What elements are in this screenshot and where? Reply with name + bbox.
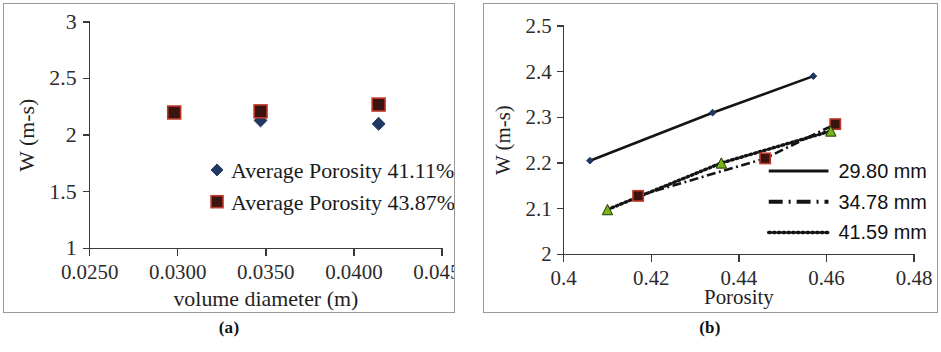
x-tick-label-a: 0.0450 xyxy=(413,260,454,284)
chart-a: 11.522.530.02500.03000.03500.04000.0450v… xyxy=(4,4,454,312)
y-tick-label-b: 2.1 xyxy=(526,197,552,221)
y-tick-label-b: 2.2 xyxy=(526,151,552,175)
x-axis-title-b: Porosity xyxy=(704,285,774,309)
legend-label-a: Average Porosity 41.11% xyxy=(231,159,454,183)
series-line-b xyxy=(590,76,813,161)
y-axis-title-a: W (m-s) xyxy=(15,99,39,172)
panel-b-caption: (b) xyxy=(650,318,770,338)
chart-b: 22.12.22.32.42.50.40.420.440.460.48Poros… xyxy=(484,4,937,312)
data-point-square xyxy=(633,191,643,201)
panel-a: 11.522.530.02500.03000.03500.04000.0450v… xyxy=(3,3,455,313)
x-axis-title-a: volume diameter (m) xyxy=(173,287,358,311)
y-tick-label-a: 2 xyxy=(66,123,77,147)
x-tick-label-b: 0.46 xyxy=(808,266,845,290)
data-point-triangle xyxy=(602,204,612,214)
data-point-square xyxy=(372,98,385,111)
data-point-square xyxy=(211,196,223,208)
x-tick-label-b: 0.4 xyxy=(551,266,578,290)
data-point-diamond xyxy=(810,73,817,80)
data-point-diamond xyxy=(709,109,716,116)
x-tick-label-a: 0.0350 xyxy=(237,260,294,284)
y-tick-label-a: 1 xyxy=(66,236,77,260)
figure-container: 11.522.530.02500.03000.03500.04000.0450v… xyxy=(0,0,941,352)
y-tick-label-a: 3 xyxy=(66,10,77,34)
legend-b: 29.80 mm34.78 mm41.59 mm xyxy=(769,160,927,244)
x-tick-label-a: 0.0400 xyxy=(325,260,382,284)
data-point-diamond xyxy=(372,117,385,130)
y-tick-label-b: 2.4 xyxy=(526,60,553,84)
data-point-diamond xyxy=(211,164,223,176)
data-point-square xyxy=(254,105,267,118)
data-point-diamond xyxy=(587,157,594,164)
legend-label-b: 41.59 mm xyxy=(838,221,926,243)
legend-a: Average Porosity 41.11%Average Porosity … xyxy=(211,159,454,215)
y-tick-label-a: 2.5 xyxy=(49,66,76,90)
panel-b: 22.12.22.32.42.50.40.420.440.460.48Poros… xyxy=(483,3,938,313)
x-tick-label-a: 0.0300 xyxy=(149,260,206,284)
y-tick-label-b: 2 xyxy=(541,242,551,266)
panel-a-caption: (a) xyxy=(169,318,289,338)
x-tick-label-a: 0.0250 xyxy=(61,260,118,284)
x-tick-label-b: 0.42 xyxy=(633,266,670,290)
legend-label-b: 34.78 mm xyxy=(838,191,926,213)
x-tick-label-b: 0.48 xyxy=(896,266,933,290)
data-point-square xyxy=(168,106,181,119)
y-axis-title-b: W (m-s) xyxy=(491,105,515,175)
y-tick-label-a: 1.5 xyxy=(49,180,76,204)
data-point-square xyxy=(760,153,770,163)
legend-label-a: Average Porosity 43.87% xyxy=(231,191,454,215)
y-tick-label-b: 2.5 xyxy=(526,14,552,38)
legend-label-b: 29.80 mm xyxy=(838,160,926,182)
y-tick-label-b: 2.3 xyxy=(526,105,552,129)
axes-b xyxy=(564,26,914,255)
